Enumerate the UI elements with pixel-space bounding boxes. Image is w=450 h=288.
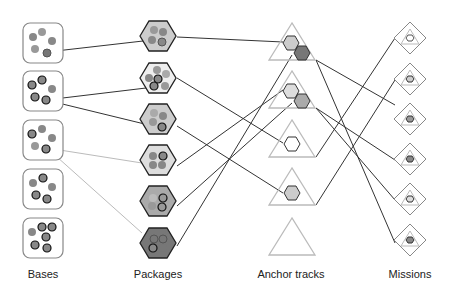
anchor-track-2 <box>269 71 315 108</box>
mission-2 <box>394 63 426 95</box>
anchor-track-4 <box>269 168 315 205</box>
mission-4 <box>394 143 426 175</box>
mission-5 <box>394 183 426 215</box>
connections <box>46 37 395 246</box>
anchor-track-5 <box>269 218 315 255</box>
mission-3 <box>394 103 426 135</box>
mission-1 <box>394 22 426 54</box>
mission-6 <box>394 224 426 256</box>
base-2 <box>23 71 63 111</box>
bases-column <box>23 23 63 258</box>
packages-label: Packages <box>108 268 208 280</box>
missions-label: Missions <box>360 268 450 280</box>
package-6 <box>140 228 176 258</box>
base-3 <box>23 120 63 160</box>
package-4 <box>140 145 176 175</box>
package-5 <box>140 186 176 216</box>
bases-label: Bases <box>0 268 93 280</box>
diagram-canvas <box>0 0 450 288</box>
base-5 <box>23 218 63 258</box>
missions-column <box>394 22 426 256</box>
base-4 <box>23 169 63 209</box>
anchor-tracks-label: Anchor tracks <box>241 268 341 280</box>
packages-column <box>140 21 176 258</box>
package-3 <box>140 104 176 134</box>
base-1 <box>23 23 63 63</box>
package-1 <box>140 21 176 51</box>
